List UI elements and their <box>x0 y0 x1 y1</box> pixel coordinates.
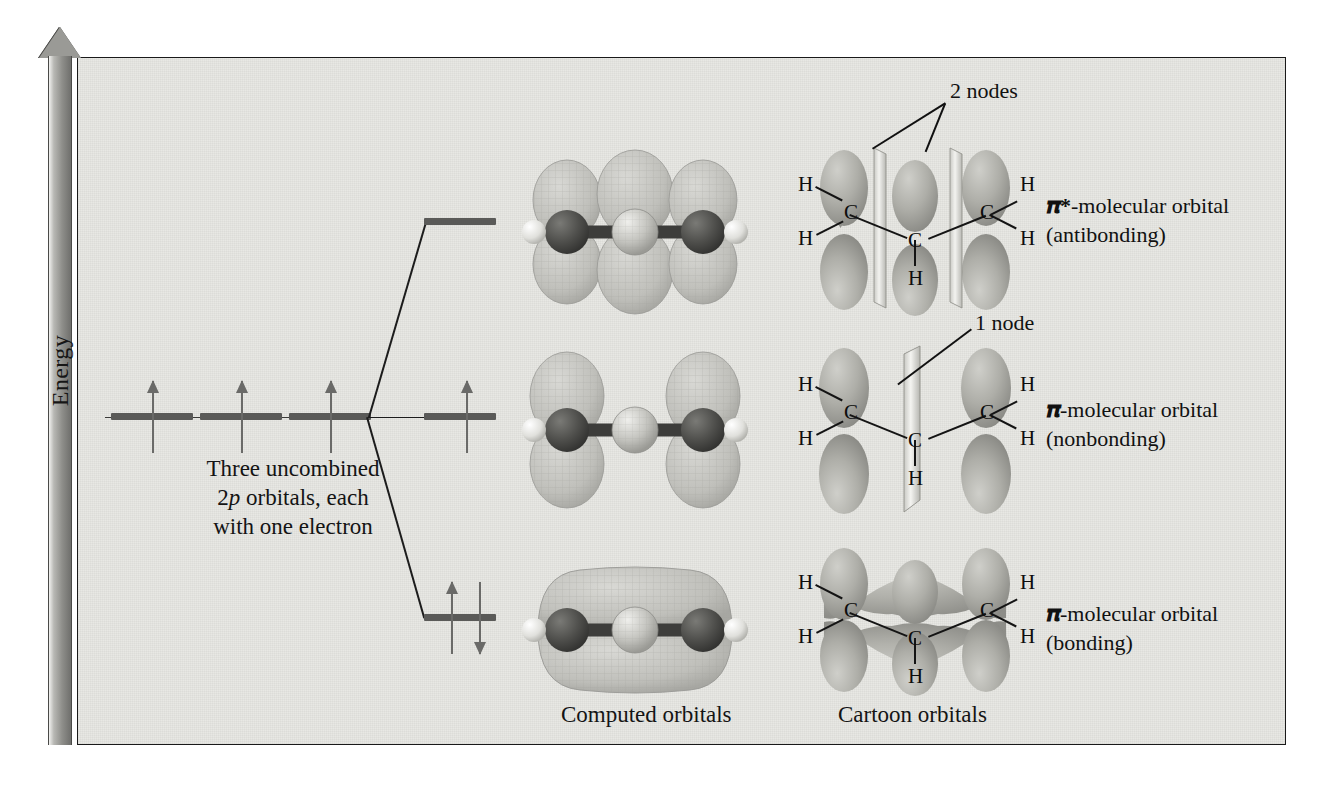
cartoon-orbital-nonbonding: H H C C H C H H <box>800 340 1030 520</box>
energy-arrow-head-icon <box>39 27 81 58</box>
atom-label-h-center: H <box>908 664 923 689</box>
atom-label-c-left: C <box>844 200 858 225</box>
caption-2p-number: 2 <box>217 485 229 510</box>
atom-label-h-right-lower: H <box>1020 426 1035 451</box>
computed-antibonding-svg <box>520 142 750 317</box>
mo-label-bonding-text: -molecular orbital <box>1060 601 1218 626</box>
level-pi-bonding <box>424 614 496 621</box>
computed-orbital-antibonding <box>520 142 750 317</box>
atom-label-h-right-upper: H <box>1020 172 1035 197</box>
pi-symbol: 𝝅 <box>1046 397 1060 422</box>
mo-label-antibonding-text: -molecular orbital <box>1071 193 1229 218</box>
caption-2p-rest: orbitals, each <box>240 485 368 510</box>
atom-label-h-right-lower: H <box>1020 624 1035 649</box>
atom-label-c-center: C <box>908 626 922 651</box>
computed-orbital-bonding <box>520 540 750 715</box>
atom-label-c-right: C <box>980 400 994 425</box>
energy-axis: Energy <box>39 27 79 745</box>
mo-label-antibonding-sub: (antibonding) <box>1046 221 1229 250</box>
atom-label-c-center: C <box>908 428 922 453</box>
level-pi-nonbonding <box>424 413 496 420</box>
atom-label-h-right-upper: H <box>1020 372 1035 397</box>
mo-label-bonding: 𝝅-molecular orbital (bonding) <box>1046 600 1218 657</box>
caption-2p-letter: p <box>229 485 241 510</box>
atom-label-h-right-upper: H <box>1020 570 1035 595</box>
atom-label-h-right-lower: H <box>1020 226 1035 251</box>
atom-label-h-left-upper: H <box>798 172 813 197</box>
atom-label-h-left-lower: H <box>798 426 813 451</box>
electron-arrow-2p-3 <box>330 381 332 453</box>
one-node-label: 1 node <box>975 310 1034 336</box>
mo-energy-diagram: Energy Three uncombined 2p orbitals, eac… <box>0 0 1319 788</box>
electron-arrow-bonding-down <box>479 582 481 654</box>
mo-label-nonbonding-text: -molecular orbital <box>1060 397 1218 422</box>
computed-orbital-nonbonding <box>520 340 750 515</box>
computed-orbitals-caption: Computed orbitals <box>561 702 732 728</box>
energy-axis-label: Energy <box>47 306 74 436</box>
cartoon-orbitals-caption: Cartoon orbitals <box>838 702 987 728</box>
atom-label-c-left: C <box>844 598 858 623</box>
atom-label-c-right: C <box>980 200 994 225</box>
correlation-line-nonbonding <box>368 417 426 419</box>
mo-label-bonding-main: 𝝅-molecular orbital <box>1046 600 1218 629</box>
caption-line-2: 2p orbitals, each <box>168 484 418 513</box>
atom-label-h-center: H <box>908 266 923 291</box>
mo-label-antibonding-main: 𝝅*-molecular orbital <box>1046 192 1229 221</box>
computed-bonding-svg <box>520 540 750 715</box>
atom-label-h-center: H <box>908 466 923 491</box>
atom-label-c-right: C <box>980 598 994 623</box>
atom-label-h-left-lower: H <box>798 226 813 251</box>
mo-label-nonbonding-main: 𝝅-molecular orbital <box>1046 396 1218 425</box>
pi-symbol: 𝝅 <box>1046 601 1060 626</box>
pi-star-symbol: 𝝅* <box>1046 193 1071 218</box>
electron-arrow-bonding-up <box>451 582 453 654</box>
mo-label-bonding-sub: (bonding) <box>1046 629 1218 658</box>
caption-line-3: with one electron <box>168 513 418 542</box>
atom-label-h-left-upper: H <box>798 570 813 595</box>
mo-label-antibonding: 𝝅*-molecular orbital (antibonding) <box>1046 192 1229 249</box>
electron-arrow-nonbonding-up <box>466 381 468 453</box>
two-nodes-label: 2 nodes <box>950 78 1018 104</box>
mo-label-nonbonding-sub: (nonbonding) <box>1046 425 1218 454</box>
atom-label-c-center: C <box>908 228 922 253</box>
cartoon-orbital-antibonding: H H C C H C H H <box>800 140 1030 320</box>
cartoon-orbital-bonding: H H C C H C H H <box>800 530 1030 710</box>
computed-nonbonding-svg <box>520 340 750 515</box>
level-pi-star-antibonding <box>424 218 496 225</box>
electron-arrow-2p-1 <box>152 381 154 453</box>
atom-label-h-left-upper: H <box>798 372 813 397</box>
electron-arrow-2p-2 <box>241 381 243 453</box>
atom-label-h-left-lower: H <box>798 624 813 649</box>
atom-label-c-left: C <box>844 400 858 425</box>
mo-label-nonbonding: 𝝅-molecular orbital (nonbonding) <box>1046 396 1218 453</box>
